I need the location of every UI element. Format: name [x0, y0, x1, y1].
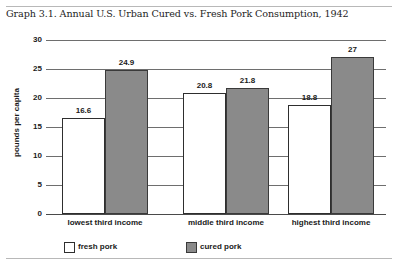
bar-cured-2: [331, 57, 374, 214]
legend-swatch-cured-icon: [186, 242, 197, 253]
bar-value-cured-1: 21.8: [226, 77, 269, 85]
y-tick-label-15: 15: [24, 123, 42, 131]
bar-value-cured-0: 24.9: [105, 59, 148, 67]
legend-label-cured: cured pork: [200, 243, 241, 251]
bar-cured-0: [105, 70, 148, 214]
bar-value-fresh-1: 20.8: [183, 82, 226, 90]
category-label-2: highest third income: [276, 219, 386, 227]
y-tick-label-30: 30: [24, 36, 42, 44]
bar-cured-1: [226, 88, 269, 214]
legend-label-fresh: fresh pork: [78, 243, 117, 251]
y-tick-label-10: 10: [24, 152, 42, 160]
y-tick-label-0: 0: [24, 210, 42, 218]
plot-area: 051015202530pounds per capita16.624.9low…: [0, 0, 398, 232]
legend-swatch-fresh-icon: [64, 242, 75, 253]
category-label-0: lowest third income: [50, 219, 160, 227]
y-tick-label-20: 20: [24, 94, 42, 102]
y-tick-label-25: 25: [24, 65, 42, 73]
bar-fresh-0: [62, 118, 105, 214]
legend-item-cured: cured pork: [186, 240, 241, 254]
bar-fresh-2: [288, 105, 331, 214]
category-label-1: middle third income: [171, 219, 281, 227]
bar-fresh-1: [183, 93, 226, 214]
bar-value-fresh-2: 18.8: [288, 94, 331, 102]
bar-value-fresh-0: 16.6: [62, 107, 105, 115]
gridline-30: [46, 40, 386, 41]
gridline-0: [46, 214, 386, 215]
y-axis-title: pounds per capita: [12, 83, 21, 163]
y-tick-label-5: 5: [24, 181, 42, 189]
legend-bottom-rule: [6, 258, 392, 259]
legend-item-fresh: fresh pork: [64, 240, 117, 254]
bar-value-cured-2: 27: [331, 46, 374, 54]
chart-legend: fresh porkcured pork: [0, 240, 398, 256]
